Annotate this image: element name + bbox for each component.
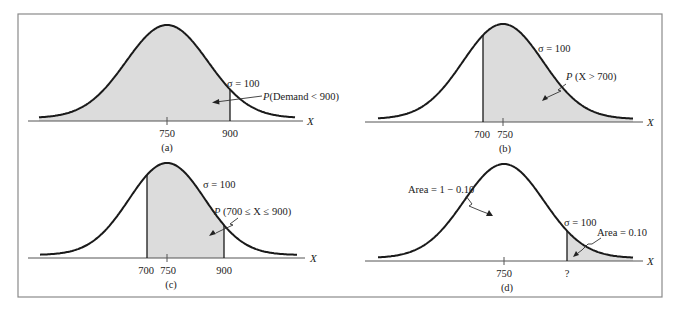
annotation-c: P (700 ≤ X ≤ 900): [213, 206, 292, 218]
x-axis-label-d: X: [646, 255, 655, 267]
annotation-b: P (X > 700): [565, 71, 617, 83]
tick-label-700-b: 700: [474, 129, 490, 140]
caption-a: (a): [161, 142, 173, 154]
sigma-label-a: σ = 100: [227, 78, 260, 89]
caption-c: (c): [165, 279, 177, 291]
x-axis-label-a: X: [306, 115, 315, 127]
caption-b: (b): [499, 143, 512, 155]
sigma-label-c: σ = 100: [203, 179, 236, 190]
normal-curve-d: [378, 164, 633, 258]
annotation-squiggle-d-main: [466, 196, 489, 214]
tick-label-750-c: 750: [160, 265, 176, 276]
tick-label-750-b: 750: [497, 129, 513, 140]
figure-border: [18, 14, 662, 297]
x-axis-label-c: X: [309, 252, 318, 264]
sigma-label-d: σ = 100: [564, 217, 597, 228]
tick-label-700-c: 700: [138, 265, 154, 276]
tick-label-900-a: 900: [222, 128, 238, 139]
panel-d: X 750 ? (d) Area = 1 − 0.10 σ = 100 Area…: [365, 164, 655, 294]
tick-label-750-a: 750: [159, 128, 175, 139]
tick-label-unknown-d: ?: [565, 268, 570, 279]
area-tail-label-d: Area = 0.10: [597, 227, 647, 238]
panel-a: X 750 900 (a) σ = 100 P(Demand < 900): [28, 25, 339, 154]
normal-distribution-figure: X 750 900 (a) σ = 100 P(Demand < 900) X …: [0, 0, 673, 311]
caption-d: (d): [501, 282, 514, 294]
panel-b: X 700 750 (b) σ = 100 P (X > 700): [365, 24, 655, 155]
shaded-area-a: [39, 25, 230, 121]
area-main-label-d: Area = 1 − 0.10: [408, 184, 474, 195]
tick-label-750-d: 750: [496, 268, 512, 279]
sigma-label-b: σ = 100: [538, 43, 571, 54]
x-axis-label-b: X: [646, 116, 655, 128]
panel-c: X 700 750 900 (c) σ = 100 P (700 ≤ X ≤ 9…: [28, 163, 318, 291]
annotation-a: P(Demand < 900): [262, 91, 339, 103]
tick-label-900-c: 900: [216, 265, 232, 276]
